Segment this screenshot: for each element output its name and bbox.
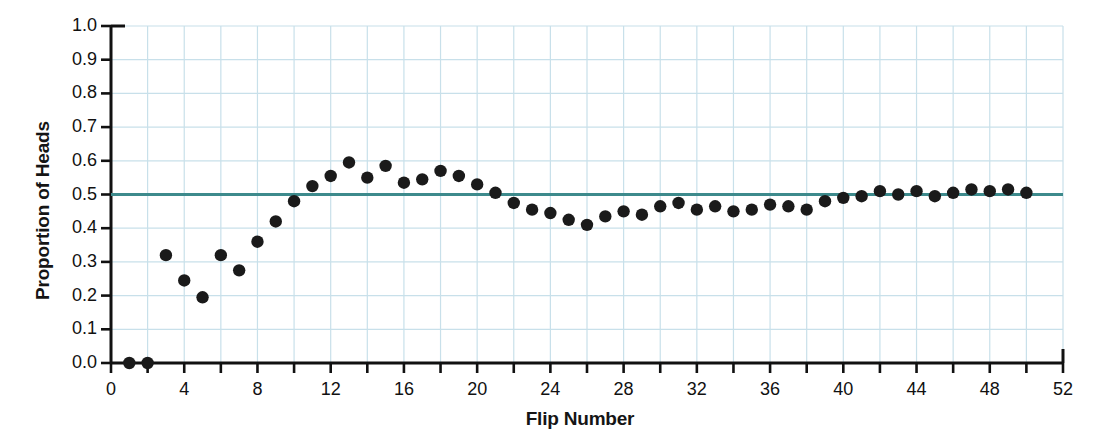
data-point — [416, 173, 428, 185]
data-point — [892, 188, 904, 200]
x-tick-label: 40 — [820, 379, 866, 400]
data-point — [123, 357, 135, 369]
x-tick-label: 32 — [674, 379, 720, 400]
data-point — [562, 214, 574, 226]
y-tick-label: 0.2 — [49, 285, 97, 306]
data-point — [160, 249, 172, 261]
data-point — [855, 190, 867, 202]
data-point — [764, 198, 776, 210]
data-point — [379, 160, 391, 172]
data-point — [141, 357, 153, 369]
plot-area — [0, 0, 1100, 442]
y-tick-label: 1.0 — [49, 15, 97, 36]
data-point — [398, 177, 410, 189]
data-point — [947, 187, 959, 199]
data-point — [984, 185, 996, 197]
data-point — [508, 197, 520, 209]
data-point — [233, 264, 245, 276]
data-point — [544, 207, 556, 219]
y-tick-label: 0.7 — [49, 116, 97, 137]
data-point — [965, 183, 977, 195]
data-point — [654, 200, 666, 212]
y-tick-label: 0.9 — [49, 49, 97, 70]
data-point — [819, 195, 831, 207]
y-tick-label: 0.6 — [49, 150, 97, 171]
data-point — [489, 187, 501, 199]
x-tick-label: 44 — [894, 379, 940, 400]
data-point — [709, 200, 721, 212]
data-point — [215, 249, 227, 261]
data-point — [782, 200, 794, 212]
data-point — [306, 180, 318, 192]
x-tick-label: 20 — [454, 379, 500, 400]
data-point — [361, 171, 373, 183]
data-point — [929, 190, 941, 202]
data-point — [727, 205, 739, 217]
y-tick-label: 0.3 — [49, 251, 97, 272]
data-point — [526, 203, 538, 215]
data-point — [270, 215, 282, 227]
y-tick-label: 0.1 — [49, 318, 97, 339]
y-tick-label: 0.8 — [49, 82, 97, 103]
x-tick-label: 24 — [527, 379, 573, 400]
x-tick-label: 8 — [234, 379, 280, 400]
data-point — [691, 203, 703, 215]
data-point — [343, 156, 355, 168]
axis-ticks — [101, 26, 1063, 373]
y-tick-label: 0.5 — [49, 184, 97, 205]
x-tick-label: 36 — [747, 379, 793, 400]
data-point — [910, 185, 922, 197]
data-point — [837, 192, 849, 204]
data-point — [471, 178, 483, 190]
data-point — [434, 165, 446, 177]
data-point — [599, 210, 611, 222]
x-tick-label: 48 — [967, 379, 1013, 400]
data-point — [288, 195, 300, 207]
data-point — [453, 170, 465, 182]
data-point — [581, 219, 593, 231]
data-point — [324, 170, 336, 182]
x-tick-label: 16 — [381, 379, 427, 400]
data-point — [178, 274, 190, 286]
data-point — [800, 203, 812, 215]
y-tick-label: 0.4 — [49, 217, 97, 238]
x-tick-label: 28 — [601, 379, 647, 400]
x-tick-label: 4 — [161, 379, 207, 400]
data-point — [1020, 187, 1032, 199]
y-tick-label: 0.0 — [49, 352, 97, 373]
x-tick-label: 12 — [308, 379, 354, 400]
data-point — [1002, 183, 1014, 195]
proportion-of-heads-chart: Proportion of Heads Flip Number 0.00.10.… — [0, 0, 1100, 442]
x-tick-label: 52 — [1040, 379, 1086, 400]
data-point — [672, 197, 684, 209]
data-point — [874, 185, 886, 197]
data-point — [746, 203, 758, 215]
data-points — [123, 156, 1032, 369]
data-point — [196, 291, 208, 303]
data-point — [251, 235, 263, 247]
x-tick-label: 0 — [88, 379, 134, 400]
data-point — [617, 205, 629, 217]
data-point — [636, 209, 648, 221]
